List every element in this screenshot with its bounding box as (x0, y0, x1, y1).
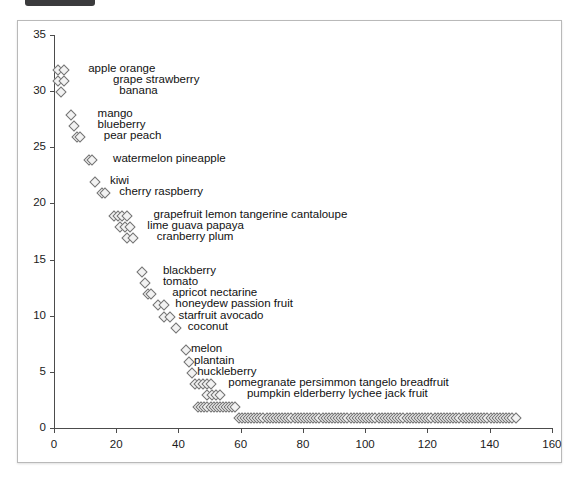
chart-panel (17, 20, 562, 463)
titlebar-fragment (25, 0, 95, 6)
screenshot-root: 05101520253035020406080100120140160apple… (0, 0, 580, 487)
